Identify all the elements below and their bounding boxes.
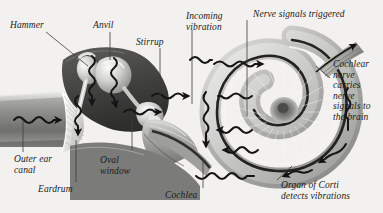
ear-anatomy-figure: Hammer Anvil Stirrup Incoming vibration … [0,0,383,213]
label-nerve-signals-triggered: Nerve signals triggered [253,9,345,20]
label-incoming-vibration: Incoming vibration [186,11,223,32]
label-cochlear-nerve: Cochlear nerve carries nerve signals to … [333,59,371,122]
label-cochlea: Cochlea [165,190,197,201]
label-organ-of-corti: Organ of Corti detects vibrations [281,180,350,201]
label-stirrup: Stirrup [136,37,164,48]
label-anvil: Anvil [93,20,114,31]
label-outer-ear-canal: Outer ear canal [14,154,52,175]
label-oval-window: Oval window [100,155,130,176]
label-eardrum: Eardrum [38,184,73,195]
label-hammer: Hammer [10,20,44,31]
